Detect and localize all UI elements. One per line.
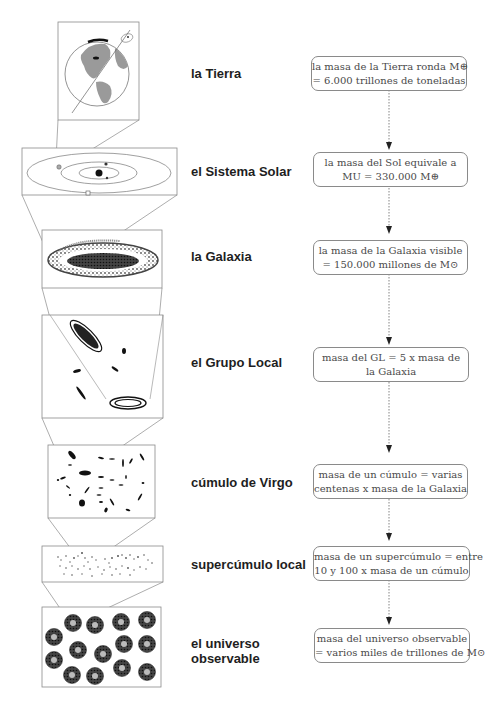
label-supercumulo: supercúmulo local: [191, 557, 306, 572]
mass-box-galaxia-line1: la masa de la Galaxia visible: [314, 244, 467, 258]
label-grupo-local: el Grupo Local: [191, 355, 282, 370]
label-cumulo-virgo: cúmulo de Virgo: [191, 475, 293, 490]
universe-panel: [42, 607, 161, 687]
label-universo-line2: observable: [191, 651, 260, 666]
mass-box-cumulo-virgo-line2: centenas x masa de la Galaxia: [314, 482, 467, 496]
earth-panel: [56, 22, 139, 166]
mass-box-universo: masa del universo observable = varios mi…: [314, 628, 470, 663]
mass-box-supercumulo-line2: 10 y 100 x masa de un cúmulo: [314, 564, 469, 578]
mass-box-grupo-local-line1: masa del GL = 5 x masa de: [314, 351, 468, 365]
mass-box-grupo-local-line2: la Galaxia: [314, 365, 468, 379]
label-tierra: la Tierra: [191, 66, 241, 81]
mass-box-cumulo-virgo-line1: masa de un cúmulo = varias: [314, 468, 467, 482]
mass-box-universo-line1: masa del universo observable: [315, 632, 469, 646]
mass-box-tierra-line1: la masa de la Tierra ronda M⊕: [312, 60, 466, 74]
mass-box-sistema-solar-line1: la masa del Sol equivale a: [314, 156, 467, 170]
label-universo-line1: el universo: [191, 636, 260, 651]
mass-box-supercumulo: masa de un supercúmulo = entre 10 y 100 …: [313, 546, 470, 581]
mass-box-tierra-line2: = 6.000 trillones de toneladas: [312, 74, 466, 88]
mass-box-grupo-local: masa del GL = 5 x masa de la Galaxia: [313, 347, 469, 382]
mass-box-cumulo-virgo: masa de un cúmulo = varias centenas x ma…: [313, 464, 468, 499]
mass-box-tierra: la masa de la Tierra ronda M⊕ = 6.000 tr…: [311, 56, 467, 91]
local-group-panel: [42, 315, 163, 460]
mass-box-galaxia: la masa de la Galaxia visible = 150.000 …: [313, 240, 468, 275]
virgo-cluster-panel: [48, 445, 155, 555]
mass-box-universo-line2: = varios miles de trillones de M⊙: [315, 646, 469, 660]
mass-box-sistema-solar: la masa del Sol equivale a MU = 330.000 …: [313, 152, 468, 187]
mass-box-supercumulo-line1: masa de un supercúmulo = entre: [314, 550, 469, 564]
label-universo: el universo observable: [191, 636, 260, 666]
mass-box-galaxia-line2: = 150.000 millones de M⊙: [314, 258, 467, 272]
label-sistema-solar: el Sistema Solar: [191, 164, 291, 179]
mass-box-sistema-solar-line2: MU = 330.000 M⊕: [314, 170, 467, 184]
label-galaxia: la Galaxia: [191, 249, 252, 264]
